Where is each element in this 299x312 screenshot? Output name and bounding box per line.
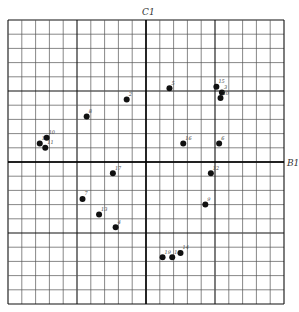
point-marker — [180, 141, 186, 147]
data-point: 4 — [113, 219, 121, 231]
point-marker — [218, 95, 224, 101]
point-marker — [169, 254, 175, 260]
point-label: 9 — [207, 196, 211, 202]
point-label: 17 — [115, 165, 122, 171]
point-marker — [110, 170, 116, 176]
point-marker — [42, 145, 48, 151]
point-marker — [80, 196, 86, 202]
data-point: 1 — [37, 135, 45, 147]
data-point: 2 — [124, 91, 132, 103]
point-label: 6 — [221, 135, 225, 141]
point-marker — [166, 85, 172, 91]
x-axis-label: B1 — [286, 158, 299, 168]
point-marker — [124, 97, 130, 103]
point-label: 5 — [171, 80, 174, 86]
point-label: 16 — [185, 135, 192, 141]
point-marker — [208, 170, 214, 176]
point-label: 14 — [183, 244, 189, 250]
y-axis-label: C1 — [142, 7, 155, 17]
point-marker — [216, 141, 222, 147]
data-point: 13 — [96, 206, 107, 218]
point-label: 13 — [101, 206, 107, 212]
point-label: 8 — [89, 108, 92, 114]
point-label: 2 — [128, 91, 132, 97]
point-label: 10 — [49, 129, 56, 135]
data-point: 6 — [216, 135, 225, 147]
point-marker — [178, 250, 184, 256]
point-label: 7 — [85, 190, 89, 196]
point-marker — [113, 224, 119, 230]
point-label: 19 — [165, 249, 172, 255]
point-label: 11 — [47, 139, 53, 145]
data-point: 16 — [180, 135, 192, 147]
point-marker — [37, 141, 43, 147]
point-marker — [202, 202, 208, 208]
point-marker — [160, 254, 166, 260]
data-point: 9 — [202, 196, 211, 208]
data-point: 7 — [80, 190, 89, 202]
scatter-plot: 1101182515320166171297134191814 C1 B1 — [0, 0, 299, 312]
point-label: 4 — [117, 219, 121, 225]
point-marker — [96, 212, 102, 218]
point-label: 20 — [222, 90, 230, 96]
data-point: 17 — [110, 165, 122, 177]
data-point: 12 — [208, 165, 219, 177]
point-marker — [213, 84, 219, 90]
point-marker — [84, 114, 90, 120]
point-label: 12 — [213, 165, 219, 171]
